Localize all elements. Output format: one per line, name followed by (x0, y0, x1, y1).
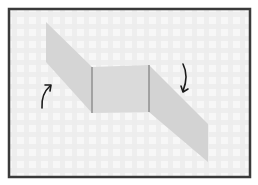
origami-diagram (0, 0, 258, 185)
diagram-canvas (0, 0, 258, 185)
center-panel (92, 65, 149, 113)
